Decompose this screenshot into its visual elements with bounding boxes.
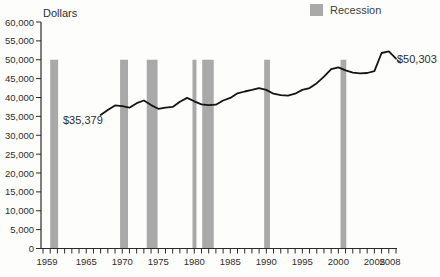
x-tick-label: 1985	[220, 256, 241, 267]
y-tick-label: 45,000	[5, 73, 34, 84]
start-value-annotation: $35,379	[63, 114, 103, 126]
recession-swatch-icon	[310, 4, 323, 16]
y-tick-label: 25,000	[5, 149, 34, 160]
x-tick-label: 1965	[76, 256, 97, 267]
recession-bar	[50, 60, 58, 249]
recession-bar	[341, 60, 347, 249]
legend: Recession	[310, 4, 381, 16]
y-tick-label: 35,000	[5, 111, 34, 122]
x-tick-label: 1970	[112, 256, 133, 267]
recession-bar	[192, 60, 196, 249]
x-tick-label: 2008	[379, 256, 400, 267]
recession-bar	[264, 60, 270, 249]
plot-area: 05,00010,00015,00020,00025,00030,00035,0…	[0, 0, 440, 277]
y-tick-label: 30,000	[5, 130, 34, 141]
legend-label: Recession	[330, 4, 381, 16]
x-tick-label: 1995	[292, 256, 313, 267]
x-tick-label: 1975	[148, 256, 169, 267]
x-tick-label: 1990	[256, 256, 277, 267]
x-tick-label: 1959	[36, 256, 57, 267]
y-tick-label: 50,000	[5, 54, 34, 65]
income-line	[101, 51, 396, 115]
y-tick-label: 15,000	[5, 186, 34, 197]
y-tick-label: 0	[29, 243, 34, 254]
real-income-chart: 05,00010,00015,00020,00025,00030,00035,0…	[0, 0, 440, 277]
y-tick-label: 20,000	[5, 168, 34, 179]
y-tick-label: 10,000	[5, 205, 34, 216]
y-tick-label: 60,000	[5, 17, 34, 28]
y-tick-label: 40,000	[5, 92, 34, 103]
recession-bar	[120, 60, 128, 249]
recession-bar	[202, 60, 214, 249]
x-tick-label: 2000	[328, 256, 349, 267]
recession-bar	[147, 60, 158, 249]
y-tick-label: 55,000	[5, 35, 34, 46]
end-value-annotation: $50,303	[397, 53, 437, 65]
x-tick-label: 1980	[184, 256, 205, 267]
y-tick-label: 5,000	[10, 224, 34, 235]
y-axis-title: Dollars	[43, 7, 77, 19]
